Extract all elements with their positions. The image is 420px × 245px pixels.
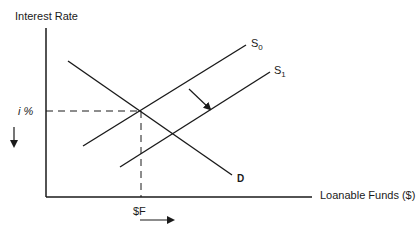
demand-curve (68, 61, 232, 175)
supply-shift-arrow-icon (189, 89, 210, 109)
y-axis-label: Interest Rate (15, 10, 78, 22)
s0-label: S0 (251, 37, 263, 52)
d-label: D (237, 173, 244, 184)
equilibrium-rate-label: i % (18, 105, 34, 117)
loanable-funds-diagram: Interest Rate Loanable Funds ($) S0 S1 D… (0, 0, 420, 245)
x-axis-label: Loanable Funds ($) (320, 189, 415, 201)
supply-curve-s1 (120, 72, 270, 167)
s1-label: S1 (274, 64, 286, 79)
supply-curve-s0 (83, 45, 246, 146)
equilibrium-quantity-label: $F (133, 205, 146, 217)
